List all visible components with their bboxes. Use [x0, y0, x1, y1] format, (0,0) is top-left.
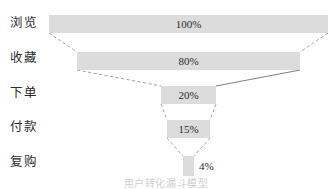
funnel-bar-payment: 15% — [167, 120, 210, 138]
connector-right-browse-to-favorite — [300, 33, 328, 52]
stage-label-favorite: 收藏 — [10, 51, 38, 65]
funnel-chart: 浏览 收藏 下单 付款 复购 100% 80% 20% 15% 4% 用户转化漏… — [0, 0, 333, 189]
connector-left-order-to-payment — [161, 104, 167, 120]
stage-label-repurchase: 复购 — [10, 154, 38, 169]
stage-label-order: 下单 — [10, 86, 38, 100]
connector-left-browse-to-favorite — [49, 33, 77, 52]
stage-label-browse: 浏览 — [10, 15, 38, 30]
funnel-bar-order: 20% — [161, 86, 216, 104]
bar-value-order: 20% — [178, 89, 198, 101]
funnel-bar-browse: 100% — [49, 15, 328, 33]
connector-left-favorite-to-order — [77, 70, 161, 86]
connector-right-favorite-to-order — [216, 70, 300, 86]
connector-right-order-to-payment — [210, 104, 216, 120]
funnel-bar-favorite: 80% — [77, 52, 300, 70]
funnel-bar-repurchase: 4% — [183, 156, 214, 176]
stage-label-payment: 付款 — [10, 120, 38, 134]
bar-value-favorite: 80% — [178, 55, 198, 67]
bar-value-repurchase: 4% — [199, 160, 214, 172]
chart-caption: 用户转化漏斗模型 — [124, 177, 209, 189]
bar-value-payment: 15% — [178, 123, 198, 135]
bar-rect-repurchase — [183, 156, 194, 176]
connector-left-payment-to-repurchase — [167, 138, 183, 156]
bar-value-browse: 100% — [176, 18, 202, 30]
connector-right-payment-to-repurchase — [194, 138, 210, 156]
